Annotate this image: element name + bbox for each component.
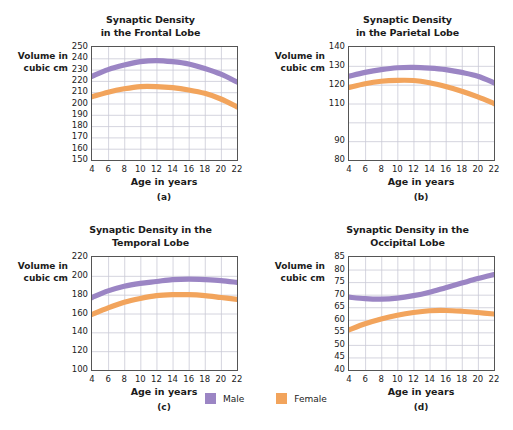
y-tick-a-4: 210 — [66, 87, 88, 96]
y-axis-label-a: Volume in cubic cm — [2, 50, 68, 74]
y-axis-label-b: Volume in cubic cm — [259, 50, 325, 74]
synaptic-density-figure: Synaptic Density in the Frontal Lobe Vol… — [0, 0, 513, 430]
y-tick-a-1: 240 — [66, 53, 88, 62]
x-tick-labels-d: 46810121416182022 — [348, 374, 495, 386]
x-tick-d-3: 10 — [392, 374, 403, 384]
panel-letter-b: (b) — [335, 192, 507, 202]
x-tick-a-3: 10 — [135, 164, 146, 174]
x-tick-a-7: 18 — [199, 164, 210, 174]
y-tick-a-3: 220 — [66, 76, 88, 85]
series-line-b-female — [349, 80, 494, 103]
x-tick-a-0: 4 — [89, 164, 94, 174]
gridlines-c — [92, 257, 237, 370]
y-tick-d-9: 40 — [323, 365, 345, 374]
chart-title-c: Synaptic Density in the Temporal Lobe — [48, 224, 253, 249]
y-axis-label-c-line2: cubic cm — [24, 273, 68, 283]
x-tick-d-7: 18 — [456, 374, 467, 384]
x-tick-d-5: 14 — [424, 374, 435, 384]
y-tick-a-9: 160 — [66, 143, 88, 152]
x-tick-c-9: 22 — [232, 374, 243, 384]
legend-item-male: Male — [205, 393, 244, 404]
panel-letter-a: (a) — [78, 192, 250, 202]
y-tick-a-8: 170 — [66, 132, 88, 141]
y-tick-a-6: 190 — [66, 110, 88, 119]
y-tick-d-6: 55 — [323, 327, 345, 336]
y-tick-c-2: 180 — [66, 289, 88, 298]
female-swatch-icon — [276, 393, 287, 404]
y-tick-c-3: 160 — [66, 308, 88, 317]
legend-label-male: Male — [223, 394, 244, 404]
y-tick-a-0: 250 — [66, 42, 88, 51]
x-tick-d-0: 4 — [346, 374, 351, 384]
y-axis-label-c: Volume in cubic cm — [2, 260, 68, 284]
x-tick-c-5: 14 — [167, 374, 178, 384]
chart-title-b: Synaptic Density in the Parietal Lobe — [305, 14, 510, 39]
x-tick-c-1: 6 — [105, 374, 110, 384]
chart-panel-b: Synaptic Density in the Parietal Lobe Vo… — [257, 4, 513, 212]
y-tick-c-5: 120 — [66, 346, 88, 355]
y-tick-d-1: 80 — [323, 264, 345, 273]
x-tick-b-3: 10 — [392, 164, 403, 174]
x-tick-a-5: 14 — [167, 164, 178, 174]
x-tick-a-8: 20 — [215, 164, 226, 174]
chart-title-c-line2: Temporal Lobe — [112, 237, 189, 248]
y-axis-label-b-line1: Volume in — [275, 51, 325, 61]
x-axis-label-b: Age in years — [335, 176, 507, 187]
x-tick-d-2: 8 — [379, 374, 384, 384]
y-tick-labels-c: 220200180160140120100 — [66, 255, 88, 373]
legend-label-female: Female — [294, 394, 327, 404]
y-tick-b-6: 80 — [323, 155, 345, 164]
x-tick-b-7: 18 — [456, 164, 467, 174]
x-tick-a-9: 22 — [232, 164, 243, 174]
x-tick-d-6: 16 — [440, 374, 451, 384]
plot-area-a — [91, 46, 238, 161]
y-tick-d-7: 50 — [323, 340, 345, 349]
x-tick-b-2: 8 — [379, 164, 384, 174]
y-tick-c-1: 200 — [66, 271, 88, 280]
x-tick-c-6: 16 — [183, 374, 194, 384]
y-axis-label-a-line2: cubic cm — [24, 63, 68, 73]
x-tick-d-1: 6 — [362, 374, 367, 384]
x-tick-a-4: 12 — [151, 164, 162, 174]
plot-area-b — [348, 46, 495, 161]
x-tick-c-4: 12 — [151, 374, 162, 384]
x-tick-b-1: 6 — [362, 164, 367, 174]
male-swatch-icon — [205, 393, 216, 404]
x-tick-labels-b: 46810121416182022 — [348, 164, 495, 176]
gridlines-a — [92, 47, 237, 160]
x-tick-b-8: 20 — [472, 164, 483, 174]
y-tick-labels-a: 250240230220210200190180170160150 — [66, 45, 88, 163]
x-tick-b-4: 12 — [408, 164, 419, 174]
chart-panel-d: Synaptic Density in the Occipital Lobe V… — [257, 214, 513, 422]
y-tick-b-2: 120 — [323, 79, 345, 88]
plot-svg-c — [92, 257, 237, 370]
y-axis-label-d-line2: cubic cm — [281, 273, 325, 283]
y-tick-b-5: 90 — [323, 136, 345, 145]
gridlines-b — [349, 47, 494, 160]
chart-title-b-line2: in the Parietal Lobe — [356, 27, 459, 38]
chart-title-c-line1: Synaptic Density in the — [89, 224, 212, 235]
x-tick-d-4: 12 — [408, 374, 419, 384]
y-tick-d-2: 75 — [323, 277, 345, 286]
y-tick-a-2: 230 — [66, 64, 88, 73]
y-axis-label-c-line1: Volume in — [18, 261, 68, 271]
x-axis-label-a: Age in years — [78, 176, 250, 187]
chart-title-a-line2: in the Frontal Lobe — [101, 27, 201, 38]
y-tick-d-4: 65 — [323, 302, 345, 311]
chart-title-d-line1: Synaptic Density in the — [346, 224, 469, 235]
chart-panel-a: Synaptic Density in the Frontal Lobe Vol… — [0, 4, 256, 212]
chart-title-a-line1: Synaptic Density — [106, 14, 195, 25]
x-tick-c-7: 18 — [199, 374, 210, 384]
y-axis-label-d: Volume in cubic cm — [259, 260, 325, 284]
y-tick-c-6: 100 — [66, 365, 88, 374]
y-axis-label-d-line1: Volume in — [275, 261, 325, 271]
series-line-a-male — [92, 61, 237, 82]
y-tick-b-3: 110 — [323, 98, 345, 107]
plot-svg-a — [92, 47, 237, 160]
chart-title-b-line1: Synaptic Density — [363, 14, 452, 25]
y-axis-label-a-line1: Volume in — [18, 51, 68, 61]
x-tick-a-6: 16 — [183, 164, 194, 174]
y-tick-d-8: 45 — [323, 352, 345, 361]
x-tick-b-5: 14 — [424, 164, 435, 174]
x-tick-b-9: 22 — [489, 164, 500, 174]
